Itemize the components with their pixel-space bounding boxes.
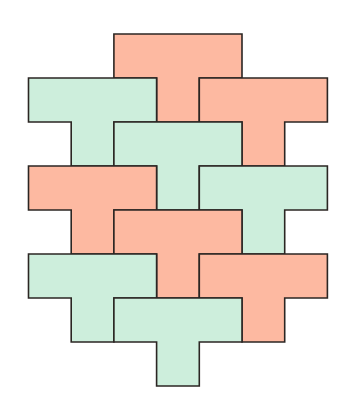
t-green-5 (114, 298, 242, 386)
t-tile-pattern (0, 0, 349, 410)
tessellation-diagram (0, 0, 349, 410)
